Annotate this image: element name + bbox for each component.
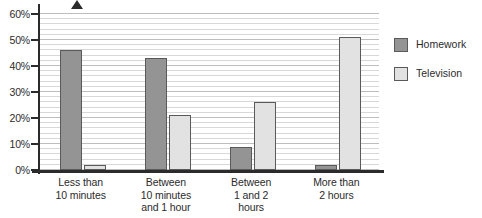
y-axis-tick-label: 30% xyxy=(0,87,30,97)
x-axis xyxy=(32,170,384,173)
x-axis-category-label-line: and 1 hour xyxy=(123,201,208,214)
legend-item-television[interactable]: Television xyxy=(394,65,466,82)
x-axis-category-label-line: More than xyxy=(294,176,379,189)
legend-label: Homework xyxy=(416,39,466,50)
x-axis-category-label-line: 1 and 2 xyxy=(209,189,294,202)
legend-swatch-icon xyxy=(394,67,408,81)
y-axis-tick-label: 50% xyxy=(0,35,30,45)
x-axis-category-label: Between10 minutesand 1 hour xyxy=(123,176,208,214)
bar-homework-1 xyxy=(145,58,167,170)
y-axis-tick-label: 40% xyxy=(0,61,30,71)
y-axis xyxy=(38,4,40,174)
legend-label: Television xyxy=(416,68,462,79)
x-axis-category-label-line: 2 hours xyxy=(294,189,379,202)
x-axis-category-label-line: hours xyxy=(209,201,294,214)
x-axis-category-label-line: 10 minutes xyxy=(123,189,208,202)
legend-item-homework[interactable]: Homework xyxy=(394,36,466,53)
x-axis-category-label: Between1 and 2hours xyxy=(209,176,294,214)
y-axis-tick-label: 60% xyxy=(0,9,30,19)
x-axis-category-label-line: 10 minutes xyxy=(38,189,123,202)
bar-homework-0 xyxy=(60,50,82,170)
bar-television-2 xyxy=(254,102,276,170)
y-axis-tick xyxy=(31,117,39,119)
x-axis-category-label-line: Less than xyxy=(38,176,123,189)
y-axis-tick-label: 0% xyxy=(0,165,30,175)
legend: HomeworkTelevision xyxy=(394,36,466,94)
y-axis-tick xyxy=(31,13,39,15)
legend-swatch-icon xyxy=(394,38,408,52)
bar-chart: 0%10%20%30%40%50%60% Less than10 minutes… xyxy=(0,0,482,218)
bar-homework-2 xyxy=(230,147,252,170)
y-axis-tick xyxy=(31,91,39,93)
y-axis-arrow-icon xyxy=(71,0,83,9)
plot-area xyxy=(38,14,379,170)
x-axis-category-label-line: Between xyxy=(209,176,294,189)
x-axis-category-label: More than2 hours xyxy=(294,176,379,201)
y-axis-tick xyxy=(31,65,39,67)
y-axis-tick xyxy=(31,143,39,145)
y-axis-tick-label: 20% xyxy=(0,113,30,123)
bars-group xyxy=(38,14,379,170)
bar-television-3 xyxy=(339,37,361,170)
y-axis-tick-label: 10% xyxy=(0,139,30,149)
x-axis-labels: Less than10 minutesBetween10 minutesand … xyxy=(38,176,379,216)
y-axis-tick xyxy=(31,39,39,41)
x-axis-category-label-line: Between xyxy=(123,176,208,189)
bar-television-1 xyxy=(169,115,191,170)
x-axis-category-label: Less than10 minutes xyxy=(38,176,123,201)
